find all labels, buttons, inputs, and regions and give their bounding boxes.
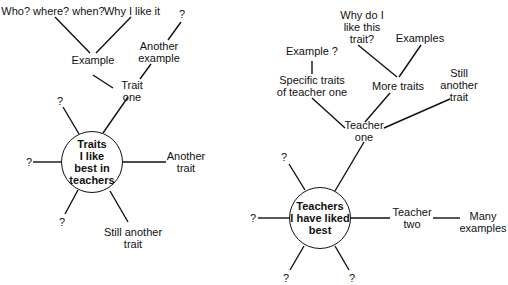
label-q-left-right: ? [250, 212, 256, 224]
line-more-traits-to-why [358, 45, 397, 77]
line-center-to-q-lower-left [290, 246, 304, 270]
line-example-to-who [55, 17, 90, 53]
label-more-traits: More traits [372, 80, 424, 92]
line-center-to-q-lower-right [335, 246, 349, 270]
line-center-to-still-another [110, 191, 128, 222]
label-teacher-two: Teacher two [392, 206, 431, 230]
label-q-upper-left: ? [57, 95, 63, 107]
label-many-examples: Many examples [459, 210, 506, 234]
line-center-to-teacher-one [335, 142, 364, 191]
label-q-upper-left-right: ? [281, 151, 287, 163]
line-center-to-q-lower-left [65, 190, 78, 214]
line-center-to-q-upper-left [63, 107, 79, 134]
label-why-i-like-it: Why I like it [104, 5, 160, 17]
label-who-where-when: Who? where? when? [1, 5, 104, 17]
label-q-lower-left-right: ? [283, 272, 289, 284]
label-still-another-trait: Still another trait [104, 226, 162, 250]
label-another-example-q: ? [179, 8, 185, 20]
label-another-example: Another example [138, 40, 180, 64]
label-specific-traits: Specific traits of teacher one [277, 74, 347, 98]
hub-teachers-i-have-liked: Teachers I have liked best [289, 187, 351, 249]
label-q-lower-left: ? [59, 216, 65, 228]
line-trait-one-to-another-example [140, 64, 151, 79]
label-examples: Examples [396, 32, 444, 44]
label-another-trait: Another trait [167, 150, 206, 174]
label-q-lower-right-right: ? [349, 272, 355, 284]
label-teacher-one: Teacher one [344, 119, 383, 143]
label-why-do-i-like: Why do I like this trait? [340, 9, 383, 45]
line-another-example-to-q [168, 22, 181, 40]
line-teacher-one-to-specific [312, 98, 345, 128]
line-example-to-why [96, 17, 131, 53]
line-more-traits-to-examples [399, 45, 421, 77]
hub-traits-i-like: Traits I like best in teachers [61, 131, 123, 193]
label-trait-one: Trait one [121, 79, 143, 103]
label-still-another-trait-right: Still another trait [435, 67, 484, 103]
label-q-left: ? [26, 156, 32, 168]
line-center-to-q-upper-left [289, 164, 305, 190]
line-teacher-one-to-more-traits [365, 93, 390, 122]
line-teacher-one-to-still-another [384, 99, 450, 128]
line-trait-one-to-example [93, 75, 113, 88]
label-example-q: Example ? [286, 45, 338, 57]
label-example: Example [72, 54, 115, 66]
